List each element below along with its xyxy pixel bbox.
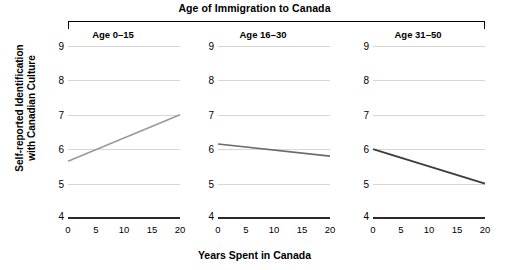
y-tick-label: 6	[58, 144, 64, 155]
plot-area: 9 8 7 6 5 4 0 5 10 15 20	[373, 46, 485, 218]
x-tick-label: 5	[93, 224, 98, 235]
y-tick-label: 6	[363, 144, 369, 155]
y-tick-label: 5	[363, 178, 369, 189]
x-tick-label: 20	[325, 224, 336, 235]
x-tick-label: 10	[119, 224, 130, 235]
y-axis-title-line1: Self-reported Identification	[14, 8, 26, 208]
y-tick-label: 6	[208, 144, 214, 155]
chart-title: Age of Immigration to Canada	[0, 2, 509, 14]
chart-figure: Age of Immigration to Canada Age 0–15 9 …	[0, 0, 509, 270]
facet-strip-bracket	[68, 21, 485, 29]
x-tick-label: 10	[269, 224, 280, 235]
facet-panel-age-16-30: Age 16–30 9 8 7 6 5 4 0 5	[196, 29, 330, 245]
y-tick-label: 7	[208, 109, 214, 120]
x-tick-label: 15	[297, 224, 308, 235]
x-tick-label: 15	[452, 224, 463, 235]
x-tick-label: 5	[398, 224, 403, 235]
facet-label: Age 0–15	[46, 29, 180, 40]
y-tick-label: 8	[208, 75, 214, 86]
y-tick-label: 7	[58, 109, 64, 120]
x-tick-label: 10	[424, 224, 435, 235]
x-axis-title: Years Spent in Canada	[0, 249, 509, 261]
x-tick-label: 0	[370, 224, 375, 235]
y-tick-label: 5	[58, 178, 64, 189]
x-tick-label: 0	[215, 224, 220, 235]
y-tick-label: 5	[208, 178, 214, 189]
facet-panel-age-0-15: Age 0–15 9 8 7 6 5 4 0 5	[46, 29, 180, 245]
y-tick-label: 9	[363, 41, 369, 52]
y-tick-label: 4	[363, 211, 369, 222]
y-axis-title: Self-reported Identification with Canadi…	[14, 8, 38, 208]
y-tick-label: 4	[208, 211, 214, 222]
x-tick-label: 20	[480, 224, 491, 235]
facet-label: Age 31–50	[351, 29, 485, 40]
y-tick-label: 8	[58, 75, 64, 86]
data-line-age-0-15	[68, 46, 180, 218]
facet-panel-age-31-50: Age 31–50 9 8 7 6 5 4 0 5	[351, 29, 485, 245]
plot-area: 9 8 7 6 5 4 0 5 10 15 20	[218, 46, 330, 218]
plot-area: 9 8 7 6 5 4 0 5 10 15 20	[68, 46, 180, 218]
y-tick-label: 9	[208, 41, 214, 52]
y-tick-label: 7	[363, 109, 369, 120]
data-line-age-31-50	[373, 46, 485, 218]
x-tick-label: 0	[65, 224, 70, 235]
x-tick-label: 5	[243, 224, 248, 235]
y-tick-label: 4	[58, 211, 64, 222]
x-tick-label: 15	[147, 224, 158, 235]
x-tick-label: 20	[175, 224, 186, 235]
facet-label: Age 16–30	[196, 29, 330, 40]
data-line-age-16-30	[218, 46, 330, 218]
y-axis-title-line2: with Canadian Culture	[26, 8, 38, 208]
y-tick-label: 8	[363, 75, 369, 86]
y-tick-label: 9	[58, 41, 64, 52]
